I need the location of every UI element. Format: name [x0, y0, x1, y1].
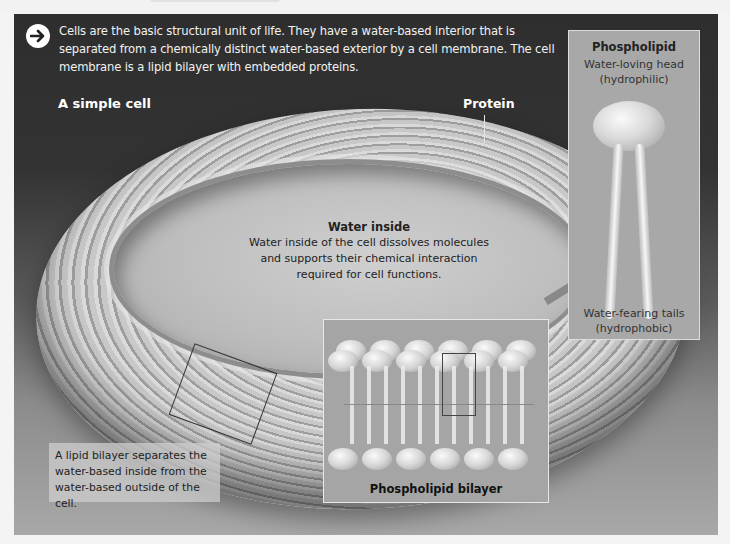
- water-inside-block: Water inside Water inside of the cell di…: [249, 219, 489, 283]
- tail-label-line-1: Water-fearing tails: [569, 306, 699, 321]
- phospholipid-tail-left: [604, 144, 623, 319]
- phospholipid-inset: Phospholipid Water-loving head (hydrophi…: [568, 30, 700, 340]
- cropped-title-text: [150, 0, 280, 2]
- bilayer-label: Phospholipid bilayer: [324, 482, 548, 496]
- single-phospholipid-highlight: [442, 353, 476, 416]
- hydrophobic-tails-label: Water-fearing tails (hydrophobic): [569, 306, 699, 336]
- bilayer-midline: [344, 404, 534, 405]
- tail-label-line-2: (hydrophobic): [569, 321, 699, 336]
- water-inside-description: Water inside of the cell dissolves molec…: [249, 235, 489, 283]
- bilayer-bottom-heads: [328, 448, 528, 470]
- head-label-line-2: (hydrophilic): [569, 72, 699, 87]
- head-label-line-1: Water-loving head: [569, 57, 699, 72]
- hydrophilic-head-label: Water-loving head (hydrophilic): [569, 57, 699, 87]
- arrow-right-circle-icon: [26, 24, 50, 48]
- heading-simple-cell: A simple cell: [58, 96, 151, 111]
- caption-text: A lipid bilayer separates the water-base…: [55, 448, 214, 512]
- phospholipid-title: Phospholipid: [569, 40, 699, 54]
- phospholipid-tail-right: [634, 144, 653, 319]
- lipid-bilayer-caption: A lipid bilayer separates the water-base…: [49, 443, 220, 502]
- protein-leader-line: [484, 115, 485, 143]
- water-inside-title: Water inside: [249, 219, 489, 235]
- protein-label: Protein: [463, 96, 515, 111]
- intro-section: Cells are the basic structural unit of l…: [26, 22, 556, 76]
- phospholipid-bilayer-inset: Phospholipid bilayer: [323, 319, 549, 503]
- top-band: [0, 0, 730, 14]
- phospholipid-head: [593, 101, 665, 151]
- infographic-panel: Cells are the basic structural unit of l…: [14, 14, 718, 535]
- intro-text: Cells are the basic structural unit of l…: [59, 22, 556, 76]
- bilayer-tails: [344, 366, 534, 444]
